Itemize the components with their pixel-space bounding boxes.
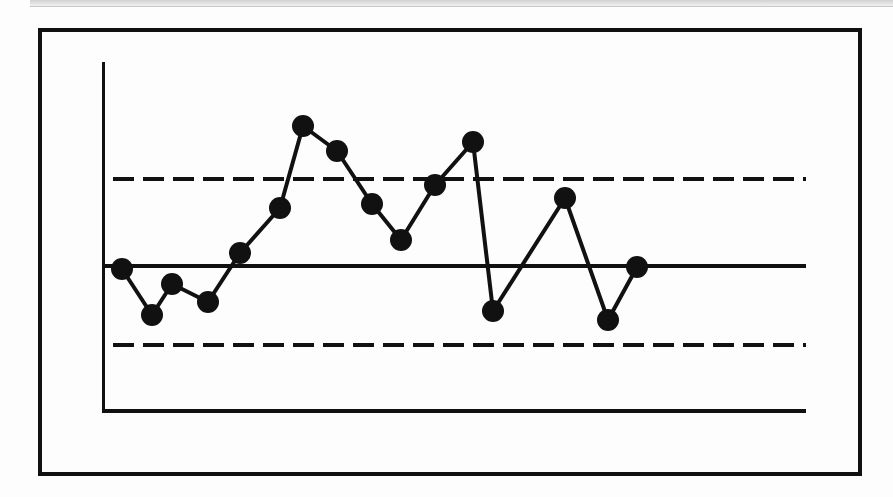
control-chart-screenshot: [0, 0, 893, 497]
x-axis-line: [102, 409, 806, 413]
center-line: [102, 264, 806, 268]
lower-control-limit-line: [113, 343, 806, 347]
y-axis-line: [102, 62, 105, 413]
scanned-page-edge-line: [30, 6, 893, 7]
upper-control-limit-line: [113, 177, 806, 181]
